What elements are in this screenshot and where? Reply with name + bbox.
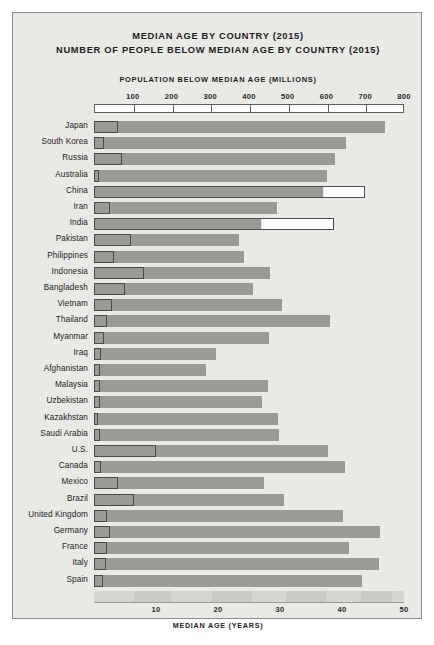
- population-below-median-age-bar: [94, 413, 98, 425]
- median-age-bar: [94, 202, 277, 214]
- population-below-median-age-bar: [94, 348, 101, 360]
- chart-row: Pakistan: [13, 233, 423, 247]
- top-axis-ruler: [94, 104, 404, 113]
- population-below-median-age-bar: [94, 526, 110, 538]
- population-below-median-age-bar: [94, 137, 104, 149]
- median-age-bar: [94, 153, 335, 165]
- chart-row: Iraq: [13, 347, 423, 361]
- row-label-south-korea: South Korea: [41, 137, 88, 146]
- population-below-median-age-bar: [94, 218, 334, 230]
- row-label-thailand: Thailand: [56, 315, 88, 324]
- population-below-median-age-bar: [94, 153, 122, 165]
- top-axis-tick: [211, 105, 212, 112]
- population-below-median-age-bar: [94, 558, 106, 570]
- median-age-bar: [94, 396, 262, 408]
- median-age-bar: [94, 315, 330, 327]
- median-age-bar: [94, 542, 349, 554]
- row-label-india: India: [70, 218, 88, 227]
- chart-title-block: MEDIAN AGE BY COUNTRY (2015) NUMBER OF P…: [13, 29, 423, 57]
- chart-row: Italy: [13, 557, 423, 571]
- bottom-axis-line: [94, 602, 404, 603]
- population-below-median-age-bar: [94, 234, 131, 246]
- chart-row: Spain: [13, 574, 423, 588]
- median-age-bar: [94, 364, 206, 376]
- top-axis-tick: [289, 105, 290, 112]
- chart-row: France: [13, 541, 423, 555]
- median-age-bar: [94, 299, 282, 311]
- row-label-kazakhstan: Kazakhstan: [44, 413, 88, 422]
- row-label-afghanistan: Afghanistan: [44, 364, 88, 373]
- median-age-bar: [94, 170, 327, 182]
- population-below-median-age-bar: [94, 510, 107, 522]
- median-age-bar: [94, 348, 216, 360]
- median-age-bar: [94, 332, 269, 344]
- chart-row: Thailand: [13, 314, 423, 328]
- population-below-median-age-bar: [94, 267, 144, 279]
- population-below-median-age-bar: [94, 477, 118, 489]
- population-below-median-age-bar: [94, 299, 112, 311]
- row-label-germany: Germany: [54, 526, 88, 535]
- top-axis-tick-label: 200: [165, 92, 179, 101]
- top-axis-tick: [250, 105, 251, 112]
- population-below-median-age-bar: [94, 315, 107, 327]
- chart-title-line-1: MEDIAN AGE BY COUNTRY (2015): [13, 29, 423, 43]
- bottom-axis-band-segment: [134, 591, 171, 602]
- chart-row: Canada: [13, 460, 423, 474]
- bottom-axis-tick-label: 20: [213, 605, 222, 614]
- top-axis-tick-labels: 100200300400500600700800: [94, 92, 404, 103]
- chart-row: Australia: [13, 169, 423, 183]
- bottom-axis-tick-label: 30: [275, 605, 284, 614]
- chart-row: Japan: [13, 120, 423, 134]
- chart-row: Bangladesh: [13, 282, 423, 296]
- median-age-bar: [94, 477, 264, 489]
- chart-row: Brazil: [13, 493, 423, 507]
- population-below-median-age-bar: [94, 494, 134, 506]
- bottom-axis-title: MEDIAN AGE (YEARS): [13, 621, 423, 630]
- chart-row: Mexico: [13, 476, 423, 490]
- chart-row: Myanmar: [13, 331, 423, 345]
- median-age-bar: [94, 251, 244, 263]
- row-label-indonesia: Indonesia: [52, 267, 88, 276]
- row-label-vietnam: Vietnam: [57, 299, 88, 308]
- chart-row: Kazakhstan: [13, 412, 423, 426]
- bottom-axis-tick-label: 10: [151, 605, 160, 614]
- row-label-u-s: U.S.: [72, 445, 88, 454]
- population-below-median-age-bar: [94, 429, 100, 441]
- median-age-bar: [94, 461, 345, 473]
- population-below-median-age-bar: [94, 170, 99, 182]
- top-axis-tick-label: 300: [203, 92, 217, 101]
- top-axis-tick-label: 800: [397, 92, 411, 101]
- row-label-uzbekistan: Uzbekistan: [46, 396, 88, 405]
- top-axis-tick-label: 100: [126, 92, 140, 101]
- population-below-median-age-bar: [94, 380, 100, 392]
- row-label-malaysia: Malaysia: [55, 380, 88, 389]
- chart-row: Philippines: [13, 250, 423, 264]
- row-label-saudi-arabia: Saudi Arabia: [40, 429, 88, 438]
- top-axis-tick-label: 500: [281, 92, 295, 101]
- median-age-bar: [94, 137, 346, 149]
- row-label-bangladesh: Bangladesh: [44, 283, 88, 292]
- chart-row: Indonesia: [13, 266, 423, 280]
- row-label-philippines: Philippines: [47, 251, 88, 260]
- chart-row: Vietnam: [13, 298, 423, 312]
- population-below-median-age-bar: [94, 283, 125, 295]
- median-age-bar: [94, 380, 268, 392]
- row-label-china: China: [66, 186, 88, 195]
- population-below-median-age-bar: [94, 202, 110, 214]
- top-axis-tick: [173, 105, 174, 112]
- median-age-bar: [94, 510, 343, 522]
- population-below-median-age-bar: [94, 364, 100, 376]
- row-label-italy: Italy: [72, 558, 88, 567]
- row-label-iraq: Iraq: [73, 348, 88, 357]
- row-label-spain: Spain: [67, 575, 88, 584]
- chart-panel: MEDIAN AGE BY COUNTRY (2015) NUMBER OF P…: [12, 12, 422, 619]
- row-label-japan: Japan: [65, 121, 88, 130]
- chart-row: China: [13, 185, 423, 199]
- population-below-median-age-bar: [94, 445, 156, 457]
- bottom-axis-band-segment: [286, 591, 326, 602]
- row-label-france: France: [62, 542, 88, 551]
- bottom-axis-tick-label: 50: [399, 605, 408, 614]
- population-below-median-age-bar: [94, 575, 103, 587]
- row-label-myanmar: Myanmar: [53, 332, 88, 341]
- row-label-mexico: Mexico: [61, 477, 88, 486]
